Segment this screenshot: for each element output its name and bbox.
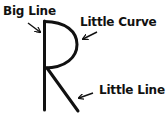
big-line-label: Big Line [3, 5, 56, 17]
little-line-stroke [47, 68, 78, 111]
arrow-to-little-curve-icon [83, 32, 97, 39]
little-curve-label: Little Curve [80, 16, 157, 28]
arrow-to-little-line-icon [79, 93, 93, 98]
arrow-to-big-line-icon [28, 23, 40, 32]
little-curve-stroke [45, 22, 78, 69]
little-line-label: Little Line [99, 84, 165, 96]
letter-r-diagram: Big Line Little Curve Little Line [0, 0, 168, 120]
